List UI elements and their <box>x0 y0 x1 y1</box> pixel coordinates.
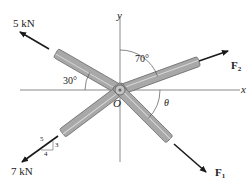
force-label-7kn: 7 kN <box>11 166 33 177</box>
y-axis-label: y <box>117 10 122 21</box>
angle-label-70: 70° <box>135 54 149 64</box>
force-label-5kn: 5 kN <box>13 18 35 29</box>
force-diagram <box>0 0 251 185</box>
angle-label-theta: θ <box>164 98 169 108</box>
force-label-f1: F1 <box>215 167 225 180</box>
arrow-f1 <box>174 144 206 172</box>
arrow-5kn <box>20 32 49 49</box>
slope-rise-label: 3 <box>55 142 59 149</box>
x-axis-label: x <box>241 84 246 95</box>
slope-run-label: 4 <box>44 151 48 158</box>
arrow-f2 <box>199 51 228 61</box>
angle-label-30: 30° <box>63 76 77 86</box>
slope-hyp-label: 5 <box>40 136 44 143</box>
force-label-f2: F2 <box>231 60 241 73</box>
origin-label: O <box>113 98 121 109</box>
